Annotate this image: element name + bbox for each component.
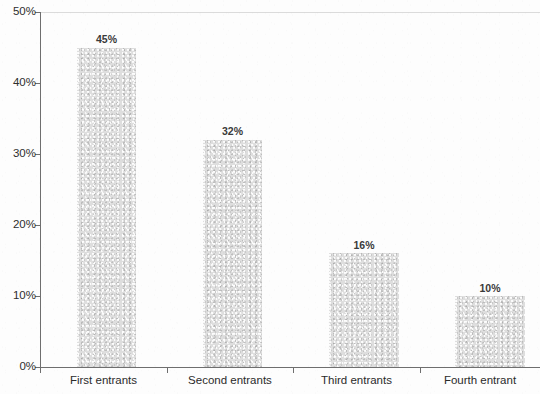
bar-first-entrants (77, 48, 136, 368)
y-axis-line (40, 12, 41, 367)
bar-third-entrants (329, 253, 399, 367)
gridline-50 (41, 12, 540, 13)
x-tick-0 (40, 368, 41, 373)
x-tick-2 (293, 368, 294, 373)
x-tick-1 (167, 368, 168, 373)
bar-fourth-entrant (455, 296, 525, 367)
y-tick-label-10: 10% (0, 289, 36, 301)
plot-area (40, 12, 540, 367)
bar-value-second-entrants: 32% (203, 125, 262, 137)
bar-value-fourth-entrant: 10% (455, 282, 525, 294)
category-label-first-entrants: First entrants (40, 374, 167, 386)
category-label-fourth-entrant: Fourth entrant (420, 374, 540, 386)
bar-value-first-entrants: 45% (77, 33, 136, 45)
y-tick-label-50: 50% (0, 5, 36, 17)
x-tick-3 (420, 368, 421, 373)
y-tick-label-30: 30% (0, 147, 36, 159)
bar-value-third-entrants: 16% (329, 239, 399, 251)
bar-chart-figure: 50% 40% 30% 20% 10% 0% 45% 32% 16% 10% F… (0, 0, 540, 394)
y-tick-label-20: 20% (0, 218, 36, 230)
category-label-third-entrants: Third entrants (293, 374, 420, 386)
x-axis-line (40, 367, 540, 368)
y-tick-label-40: 40% (0, 76, 36, 88)
y-tick-label-0: 0% (0, 360, 36, 372)
category-label-second-entrants: Second entrants (167, 374, 293, 386)
bar-second-entrants (203, 140, 262, 367)
